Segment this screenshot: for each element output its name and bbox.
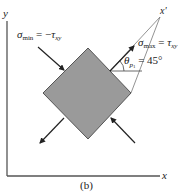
sigma-min-arrow-bottom-right bbox=[111, 118, 135, 143]
figure-caption: (b) bbox=[80, 179, 93, 192]
sigma-max-label: σmax = τxy bbox=[138, 36, 178, 50]
theta-p1-label: θp1 = 45° bbox=[124, 54, 163, 69]
x-axis-label: x bbox=[161, 169, 167, 181]
x-prime-label: x' bbox=[159, 5, 167, 16]
sigma-max-arrow-down-left bbox=[40, 118, 64, 143]
sigma-min-arrow-top-left bbox=[38, 47, 64, 70]
sigma-min-label: σmin = −τxy bbox=[17, 28, 62, 42]
stress-element-diagram: y x x' σmin = −τxy σmax = τxy θp1 = 45° … bbox=[0, 0, 183, 194]
y-axis-label: y bbox=[2, 7, 8, 19]
